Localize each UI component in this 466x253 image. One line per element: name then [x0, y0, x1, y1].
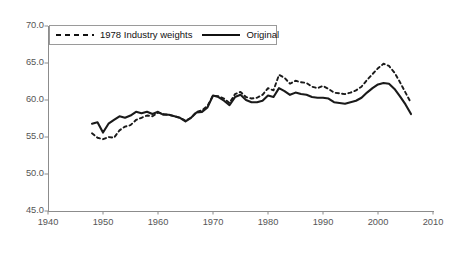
y-tick-label: 60.0: [6, 94, 44, 104]
dashed-line-swatch-icon: [55, 30, 95, 40]
x-tick-label: 1990: [303, 217, 343, 227]
y-tick-label: 70.0: [6, 20, 44, 30]
x-tick-label: 1950: [83, 217, 123, 227]
line-chart: 45.050.055.060.065.070.0 194019501960197…: [0, 0, 466, 253]
x-tick-label: 1940: [28, 217, 68, 227]
y-axis-ticks: [45, 26, 49, 211]
legend-label-original: Original: [246, 30, 279, 40]
x-tick-label: 1960: [138, 217, 178, 227]
chart-legend: 1978 Industry weights Original: [49, 25, 277, 45]
x-tick-label: 1980: [248, 217, 288, 227]
y-tick-label: 50.0: [6, 168, 44, 178]
legend-entry-industry-weights: 1978 Industry weights: [50, 26, 192, 44]
y-tick-label: 45.0: [6, 205, 44, 215]
x-tick-label: 1970: [193, 217, 233, 227]
legend-entry-original: Original: [192, 26, 279, 44]
data-series-layer: [92, 64, 411, 139]
y-tick-label: 65.0: [6, 57, 44, 67]
legend-label-industry-weights: 1978 Industry weights: [100, 30, 192, 40]
x-tick-label: 2010: [413, 217, 453, 227]
y-tick-label: 55.0: [6, 131, 44, 141]
series-line-original: [92, 83, 411, 133]
x-tick-label: 2000: [358, 217, 398, 227]
axis-lines: [48, 26, 434, 212]
solid-line-swatch-icon: [201, 30, 241, 40]
